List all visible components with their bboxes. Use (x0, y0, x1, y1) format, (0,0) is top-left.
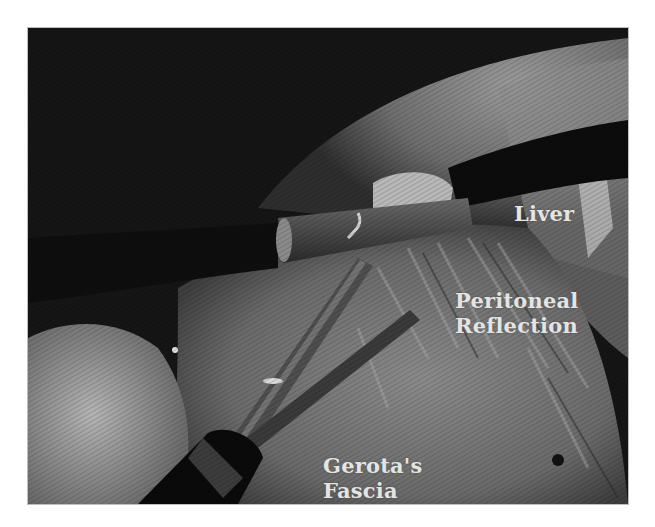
laparoscopic-photo: Liver Peritoneal Reflection Gerota's Fas… (28, 28, 628, 504)
label-gerotas-fascia: Gerota's Fascia (323, 453, 423, 503)
label-peritoneal-reflection: Peritoneal Reflection (455, 288, 579, 338)
label-peritoneal-line1: Peritoneal (455, 288, 579, 313)
label-gerota-line2: Fascia (323, 478, 423, 503)
figure: Liver Peritoneal Reflection Gerota's Fas… (0, 0, 655, 527)
label-gerota-line1: Gerota's (323, 453, 423, 478)
label-peritoneal-line2: Reflection (455, 313, 579, 338)
label-liver: Liver (514, 201, 574, 226)
surgical-scene-illustration (28, 28, 628, 504)
